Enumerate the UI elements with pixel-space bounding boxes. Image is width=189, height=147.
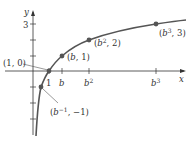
label-b-1: (b, 1) (67, 52, 90, 62)
label-1-0: (1, 0) (3, 58, 26, 68)
x-axis-label: x (179, 74, 184, 84)
leader-line-b-inv (43, 89, 58, 103)
y-axis-label: y (23, 7, 29, 17)
x-tick-b2: b2 (84, 77, 93, 88)
y-axis-arrow-icon (31, 10, 35, 16)
x-axis-arrow-icon (180, 69, 186, 73)
leader-line-1-0 (23, 64, 48, 70)
point-1-0 (47, 69, 52, 74)
point-b3-3 (154, 22, 159, 27)
x-axis: x 1 b b2 b3 (5, 68, 186, 88)
y-tick-3: 3 (23, 20, 28, 30)
point-b-1 (60, 54, 65, 59)
label-b2-2: (b2, 2) (94, 37, 121, 48)
x-tick-1: 1 (46, 78, 51, 88)
label-b3-3: (b3, 3) (159, 27, 186, 38)
x-tick-b: b (59, 78, 64, 88)
log-graph: x 1 b b2 b3 y 3 (1, 0) (b, 1) ( (0, 0, 189, 147)
x-tick-b3: b3 (151, 77, 160, 88)
label-b-inv: (b−1, −1) (50, 106, 89, 117)
data-points (39, 22, 159, 90)
point-b-inv (39, 85, 44, 90)
point-b2-2 (87, 38, 92, 43)
